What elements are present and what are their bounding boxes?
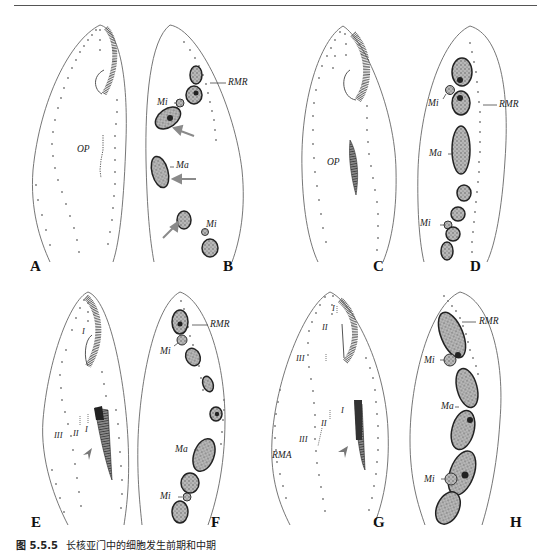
label-row-i-g-top: I — [332, 303, 335, 313]
panel-e-cell — [43, 292, 129, 525]
label-rmr-b: RMR — [228, 77, 248, 87]
label-ma-h: Ma — [441, 401, 454, 411]
label-row-iii-g-top: III — [296, 353, 305, 363]
panel-label-a: A — [30, 258, 41, 275]
label-row-ii-e: II — [73, 428, 79, 438]
label-mi-d-top: Mi — [428, 98, 439, 108]
label-mi-h-bottom: Mi — [424, 474, 435, 484]
label-mi-f-top: Mi — [160, 346, 171, 356]
label-row-i-g: I — [341, 405, 344, 415]
panel-label-g: G — [373, 514, 385, 531]
arrowhead-icon — [338, 446, 348, 458]
label-ma-f: Ma — [175, 444, 188, 454]
label-row-iii-e: III — [54, 430, 63, 440]
label-row-i-e-top: I — [82, 326, 85, 336]
label-ma-d: Ma — [429, 148, 442, 158]
label-rma-g: RMA — [272, 450, 292, 460]
arrowhead-icon — [83, 448, 92, 460]
panel-label-b: B — [223, 258, 233, 275]
label-rmr-d: RMR — [499, 99, 519, 109]
label-row-i-e: I — [85, 424, 88, 434]
label-row-ii-g: II — [321, 418, 327, 428]
panel-b-cell — [146, 25, 243, 262]
panel-label-e: E — [31, 514, 41, 531]
caption-text: 长核亚门中的细胞发生前期和中期 — [66, 540, 216, 551]
figure-caption: 图 5.5.5长核亚门中的细胞发生前期和中期 — [16, 537, 216, 552]
label-op-c: OP — [327, 157, 340, 167]
label-row-ii-g-top: II — [322, 322, 328, 332]
label-rmr-f: RMR — [210, 319, 230, 329]
panel-label-c: C — [373, 258, 384, 275]
caption-number: 图 5.5.5 — [16, 540, 58, 551]
panel-c-cell — [302, 26, 396, 262]
panel-label-d: D — [470, 258, 481, 275]
panel-label-h: H — [510, 514, 522, 531]
label-mi-h-top: Mi — [424, 355, 435, 365]
label-row-iii-g: III — [299, 434, 308, 444]
panel-h-cell — [410, 292, 501, 528]
label-mi-f-bottom: Mi — [160, 491, 171, 501]
label-rmr-h: RMR — [479, 316, 499, 326]
label-mi-b-top: Mi — [157, 97, 168, 107]
label-mi-b-bottom: Mi — [206, 219, 217, 229]
panel-label-f: F — [211, 514, 220, 531]
panel-d-cell — [418, 26, 506, 262]
label-ma-b: Ma — [176, 160, 189, 170]
panel-g-cell — [272, 292, 389, 525]
label-op-a: OP — [77, 144, 90, 154]
label-mi-d-bottom: Mi — [420, 218, 431, 228]
